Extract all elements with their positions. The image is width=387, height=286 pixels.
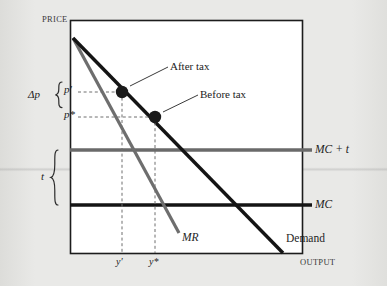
tax-gap-brace: [51, 150, 58, 205]
x-axis-label: OUTPUT: [300, 257, 335, 267]
before-tax-leader-line: [163, 95, 198, 112]
after-tax-point: [116, 86, 128, 98]
after-tax-annotation: After tax: [170, 60, 209, 72]
monopoly-tax-diagram: PRICE OUTPUT p′ p* Δp t After tax Before…: [0, 0, 387, 286]
mr-label: MR: [182, 231, 199, 243]
after-tax-leader-line: [130, 67, 168, 86]
demand-label: Demand: [286, 232, 325, 244]
before-tax-point: [149, 111, 161, 123]
mc-plus-t-label: MC + t: [315, 143, 349, 155]
y-axis-label: PRICE: [42, 14, 68, 24]
before-tax-price-label: p*: [64, 108, 75, 120]
before-tax-annotation: Before tax: [200, 88, 246, 100]
plot-frame: [71, 21, 303, 254]
delta-p-label: Δp: [28, 88, 40, 100]
tax-gap-label: t: [41, 170, 44, 182]
delta-p-brace: [55, 82, 62, 108]
after-tax-price-label: p′: [64, 83, 72, 95]
after-tax-quantity-label: y′: [116, 256, 123, 267]
before-tax-quantity-label: y*: [149, 256, 158, 267]
mc-label: MC: [315, 198, 332, 210]
